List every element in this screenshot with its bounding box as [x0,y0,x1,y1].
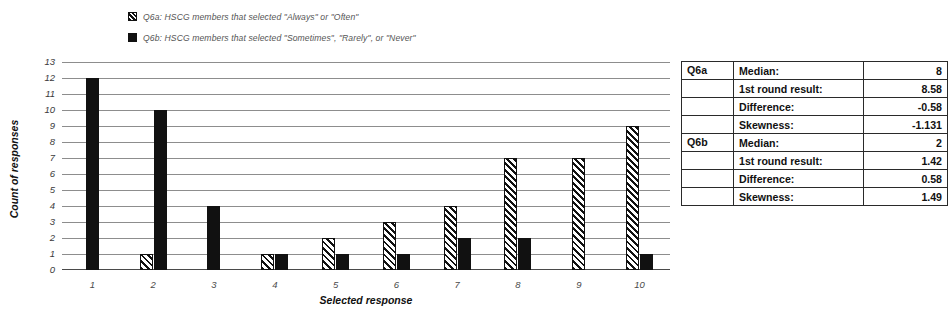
table-cell-metric: 1st round result: [734,152,864,170]
x-axis-tick-label: 4 [272,279,277,290]
table-cell-group [682,80,734,98]
y-axis-tick-label: 0 [50,265,55,275]
solid-swatch-icon [128,33,137,42]
table-cell-value: 8.58 [864,80,948,98]
x-axis-tick-label: 2 [151,279,156,290]
bar-q6b [207,206,220,270]
bar-q6a [322,238,335,270]
bar-group: 1 [62,62,123,270]
bar-q6b [397,254,410,270]
y-axis-tick-label: 9 [50,121,55,131]
bar-q6b [640,254,653,270]
table-cell-metric: Skewness: [734,116,864,134]
table-cell-metric: Median: [734,62,864,80]
x-axis-tick-label: 5 [333,279,338,290]
bar-q6a [572,158,585,270]
legend-item-label: Q6b: HSCG members that selected "Sometim… [143,33,416,43]
bar-group: 8 [488,62,549,270]
bar-q6a [383,222,396,270]
table-cell-group [682,152,734,170]
table-row: Difference:0.58 [682,170,948,188]
bar-group: 5 [305,62,366,270]
hatch-swatch-icon [128,12,137,21]
table-cell-value: 0.58 [864,170,948,188]
bar-q6a [140,254,153,270]
y-axis-tick-label: 3 [50,217,55,227]
bar-q6b [458,238,471,270]
legend-item-q6a: Q6a: HSCG members that selected "Always"… [128,6,668,27]
x-axis-tick-label: 1 [90,279,95,290]
statistics-table-body: Q6aMedian:81st round result:8.58Differen… [682,62,948,206]
x-axis-tick-label: 8 [515,279,520,290]
bar-group: 2 [123,62,184,270]
y-axis-tick-label: 7 [50,153,55,163]
x-axis-tick-label: 9 [576,279,581,290]
y-axis-title: Count of responses [8,109,20,229]
table-cell-value: -1.131 [864,116,948,134]
y-axis-tick-label: 6 [50,169,55,179]
plot-area: 13121110987654321012345678910 [62,62,670,270]
bar-q6a [444,206,457,270]
table-cell-group [682,188,734,206]
table-cell-metric: Skewness: [734,188,864,206]
bar-q6b [154,110,167,270]
y-axis-tick-label: 4 [50,201,55,211]
table-row: Q6aMedian:8 [682,62,948,80]
y-axis-tick-label: 11 [45,89,55,99]
bar-group: 10 [609,62,670,270]
x-axis-tick-label: 7 [455,279,460,290]
x-axis-tick-label: 3 [211,279,216,290]
y-axis-tick-label: 5 [50,185,55,195]
bar-q6b [518,238,531,270]
y-axis-tick-label: 10 [44,105,55,115]
bar-q6a [626,126,639,270]
legend-item-q6b: Q6b: HSCG members that selected "Sometim… [128,27,668,48]
table-cell-group: Q6b [682,134,734,152]
table-row: Skewness:1.49 [682,188,948,206]
table-cell-group [682,98,734,116]
table-cell-metric: Difference: [734,170,864,188]
bar-group: 3 [184,62,245,270]
table-cell-group [682,170,734,188]
y-axis-tick-label: 1 [50,249,55,259]
bar-q6b [275,254,288,270]
bar-group: 4 [244,62,305,270]
bar-q6b [336,254,349,270]
legend-item-label: Q6a: HSCG members that selected "Always"… [143,12,359,22]
table-cell-value: 8 [864,62,948,80]
y-axis-tick-label: 8 [50,137,55,147]
table-cell-value: -0.58 [864,98,948,116]
table-row: Q6bMedian:2 [682,134,948,152]
table-row: 1st round result:8.58 [682,80,948,98]
x-axis-title: Selected response [62,294,670,306]
x-axis-tick-label: 10 [634,279,645,290]
table-cell-group [682,116,734,134]
table-cell-metric: Median: [734,134,864,152]
bar-group: 9 [548,62,609,270]
table-cell-metric: Difference: [734,98,864,116]
table-cell-metric: 1st round result: [734,80,864,98]
x-axis-tick-label: 6 [394,279,399,290]
table-cell-value: 2 [864,134,948,152]
statistics-table: Q6aMedian:81st round result:8.58Differen… [681,61,948,206]
bar-chart: Count of responses 131211109876543210123… [0,55,678,319]
bar-q6b [86,78,99,270]
table-row: Difference:-0.58 [682,98,948,116]
table-row: Skewness:-1.131 [682,116,948,134]
y-axis-tick-label: 2 [50,233,55,243]
table-cell-value: 1.42 [864,152,948,170]
bar-q6a [504,158,517,270]
y-axis-tick-label: 13 [44,57,55,67]
bar-group: 6 [366,62,427,270]
bar-group: 7 [427,62,488,270]
table-cell-value: 1.49 [864,188,948,206]
chart-legend: Q6a: HSCG members that selected "Always"… [128,6,668,48]
table-cell-group: Q6a [682,62,734,80]
bar-q6a [261,254,274,270]
y-axis-tick-label: 12 [44,73,55,83]
table-row: 1st round result:1.42 [682,152,948,170]
